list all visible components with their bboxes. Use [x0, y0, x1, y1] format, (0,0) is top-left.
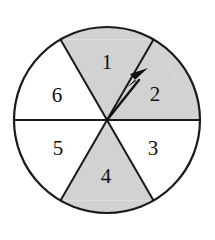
spinner-figure: 1 2 3 4 5 6	[0, 0, 215, 240]
sector-label-1: 1	[102, 50, 113, 74]
sector-label-6: 6	[52, 83, 63, 107]
sector-label-4: 4	[101, 164, 112, 188]
sector-label-3: 3	[148, 136, 159, 160]
sector-label-5: 5	[53, 136, 64, 160]
sector-label-2: 2	[150, 82, 161, 106]
spinner-wheel-graphic: 1 2 3 4 5 6	[0, 0, 215, 240]
